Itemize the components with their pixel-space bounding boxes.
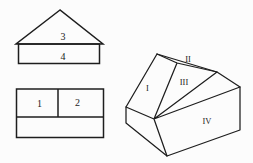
diagram-svg: 3 4 1 2 I II III IV <box>0 0 253 163</box>
solid-view: I II III IV <box>126 54 240 156</box>
solid-outline <box>126 54 240 156</box>
solid-front-face-label: IV <box>203 116 213 126</box>
solid-left-slope-label: I <box>146 83 149 93</box>
plan-view: 1 2 <box>17 89 104 138</box>
solid-inner-edges <box>126 54 240 156</box>
plan-view-outline <box>17 89 104 138</box>
solid-top-sliver-label: II <box>185 54 191 64</box>
plan-view-cell2-label: 2 <box>75 97 80 108</box>
solid-front-slope-label: III <box>180 77 189 87</box>
front-view-triangle-label: 3 <box>61 31 66 42</box>
front-view-triangle <box>16 10 103 44</box>
front-view-rectangle <box>19 44 100 64</box>
front-view: 3 4 <box>16 10 103 64</box>
geometry-diagram: 3 4 1 2 I II III IV <box>0 0 253 163</box>
plan-view-cell1-label: 1 <box>37 98 42 109</box>
front-view-rectangle-label: 4 <box>61 51 66 62</box>
